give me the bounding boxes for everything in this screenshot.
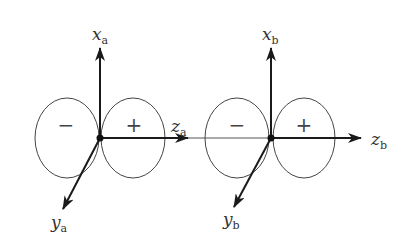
origin-b — [268, 135, 275, 142]
orbital-a: − + xa za ya — [35, 24, 188, 235]
origin-a — [97, 135, 104, 142]
p-orbital-diagram: − + xa za ya − + xb zb — [0, 0, 408, 248]
plus-sign-a: + — [126, 113, 143, 137]
minus-sign-a: − — [58, 113, 75, 137]
minus-sign-b: − — [229, 113, 246, 137]
z-axis-label-b: zb — [370, 129, 387, 152]
plus-sign-b: + — [296, 113, 313, 137]
lobe-negative-a — [35, 98, 99, 178]
x-axis-label-a: xa — [92, 24, 109, 47]
orbital-b: − + xb zb yb — [205, 24, 387, 232]
y-axis-label-a: ya — [50, 212, 68, 235]
y-axis-a — [63, 138, 100, 209]
x-axis-label-b: xb — [262, 24, 279, 47]
y-axis-label-b: yb — [222, 209, 240, 232]
y-axis-b — [234, 138, 271, 207]
z-axis-label-a: za — [170, 116, 187, 139]
